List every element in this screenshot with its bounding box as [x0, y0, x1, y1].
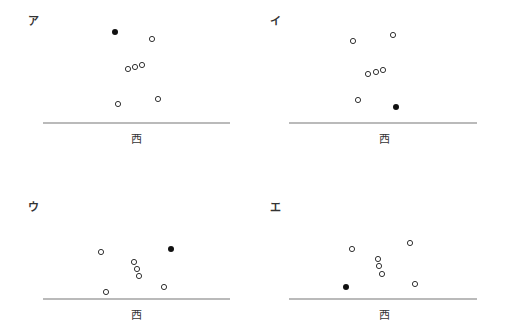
open-dot — [349, 246, 354, 251]
open-dot — [149, 36, 154, 41]
open-dot — [161, 284, 166, 289]
open-dot — [155, 96, 160, 101]
open-dot — [125, 66, 130, 71]
filled-dot — [393, 104, 399, 110]
panel-i — [289, 32, 477, 123]
open-dot — [373, 69, 378, 74]
open-dot — [134, 266, 139, 271]
open-dot — [379, 271, 384, 276]
open-dot — [376, 263, 381, 268]
panel-e — [289, 240, 477, 299]
open-dot — [115, 101, 120, 106]
filled-dot — [168, 246, 174, 252]
open-dot — [355, 97, 360, 102]
open-dot — [365, 71, 370, 76]
filled-dot — [343, 284, 349, 290]
open-dot — [139, 62, 144, 67]
open-dot — [131, 259, 136, 264]
open-dot — [132, 64, 137, 69]
open-dot — [380, 67, 385, 72]
open-dot — [136, 273, 141, 278]
open-dot — [407, 240, 412, 245]
open-dot — [98, 249, 103, 254]
open-dot — [390, 32, 395, 37]
open-dot — [375, 256, 380, 261]
filled-dot — [112, 29, 118, 35]
open-dot — [412, 281, 417, 286]
panel-a — [43, 29, 230, 123]
open-dot — [350, 38, 355, 43]
panel-u — [43, 246, 230, 299]
open-dot — [103, 289, 108, 294]
